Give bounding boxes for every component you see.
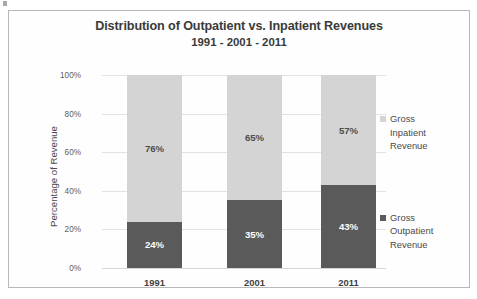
legend-line-3: Revenue (390, 140, 428, 151)
y-tick-label-0: 0% (69, 264, 81, 273)
bar-segment-outpatient[interactable]: 35% (227, 200, 282, 268)
plot-area: 100% 80% 60% 40% 20% 0% 76% 24% 1991 (119, 75, 368, 268)
chart-legend: GrossInpatientRevenue GrossOutpatientRev… (380, 112, 464, 299)
scan-speck (3, 1, 7, 6)
data-label-outpatient: 43% (339, 221, 358, 232)
y-tick-label-100: 100% (60, 71, 81, 80)
bar-group-2001[interactable]: 65% 35% 2001 (227, 75, 282, 268)
bar-segment-inpatient[interactable]: 57% (321, 75, 376, 185)
y-tick-label-20: 20% (65, 225, 81, 234)
legend-item-inpatient[interactable]: GrossInpatientRevenue (380, 112, 464, 153)
y-tick-label-80: 80% (65, 109, 81, 118)
legend-line-1: Gross (390, 212, 415, 223)
bar-group-1991[interactable]: 76% 24% 1991 (127, 75, 182, 268)
y-axis-title-label: Percentage of Revenue (48, 126, 59, 227)
legend-line-3: Revenue (390, 239, 428, 250)
legend-line-2: Inpatient (390, 127, 426, 138)
data-label-outpatient: 35% (245, 229, 264, 240)
x-tick-label: 1991 (127, 277, 182, 288)
legend-item-label: GrossInpatientRevenue (390, 112, 428, 153)
chart-title-block: Distribution of Outpatient vs. Inpatient… (9, 19, 469, 50)
data-label-inpatient: 57% (339, 125, 358, 136)
gridline-0: 0% (102, 268, 386, 269)
legend-item-outpatient[interactable]: GrossOutpatientRevenue (380, 211, 464, 252)
legend-line-2: Outpatient (390, 225, 433, 236)
data-label-inpatient: 65% (245, 132, 264, 143)
data-label-outpatient: 24% (145, 239, 164, 250)
x-tick-label: 2001 (227, 277, 282, 288)
legend-item-label: GrossOutpatientRevenue (390, 211, 433, 252)
chart-subtitle: 1991 - 2001 - 2011 (9, 35, 469, 50)
legend-swatch-icon (380, 116, 386, 122)
chart-title: Distribution of Outpatient vs. Inpatient… (9, 19, 469, 34)
y-tick-label-60: 60% (65, 148, 81, 157)
data-label-inpatient: 76% (145, 143, 164, 154)
legend-swatch-icon (380, 215, 386, 221)
bar-segment-inpatient[interactable]: 76% (127, 75, 182, 222)
bar-segment-outpatient[interactable]: 43% (321, 185, 376, 268)
y-tick-label-40: 40% (65, 186, 81, 195)
x-tick-label: 2011 (321, 277, 376, 288)
bar-segment-outpatient[interactable]: 24% (127, 222, 182, 268)
y-axis-title: Percentage of Revenue (45, 81, 61, 271)
bar-group-2011[interactable]: 57% 43% 2011 (321, 75, 376, 268)
legend-line-1: Gross (390, 113, 415, 124)
bar-segment-inpatient[interactable]: 65% (227, 75, 282, 200)
